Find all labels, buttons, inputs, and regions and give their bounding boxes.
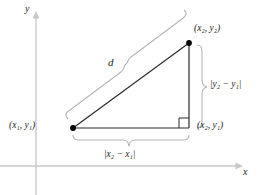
- point-marker-upper-right: [186, 40, 192, 46]
- x-axis-label: x: [243, 167, 247, 177]
- y-axis-label: y: [25, 4, 29, 14]
- point-label-upper-right: (x₂, y₂): [194, 24, 220, 34]
- right-triangle: [73, 43, 189, 128]
- point-marker-lower-left: [70, 125, 76, 131]
- horizontal-leg-label: |x₂ − x₁|: [104, 150, 135, 160]
- brace-horizontal-leg: [73, 135, 189, 146]
- point-label-right-angle: (x₂, y₁): [197, 121, 223, 131]
- point-label-lower-left: (x₁, y₁): [9, 121, 35, 131]
- brace-vertical-leg: [197, 45, 207, 128]
- y-axis: [33, 11, 40, 195]
- brace-hypotenuse: [66, 10, 186, 119]
- right-angle-marker: [179, 118, 189, 128]
- hypotenuse-label: d: [108, 57, 114, 68]
- distance-formula-diagram: y x (x₁, y₁) (x₂, y₂) (x₂, y₁) d |y₂ − y…: [0, 0, 258, 195]
- vertical-leg-label: |y₂ − y₁|: [210, 80, 241, 90]
